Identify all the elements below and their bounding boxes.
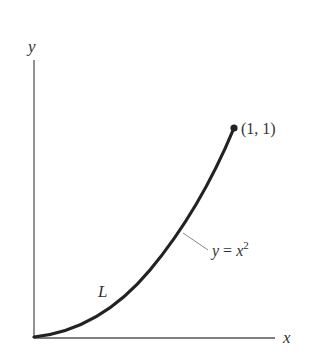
equation-leader-line — [183, 233, 208, 250]
eq-x: x — [235, 242, 243, 259]
point-label: (1, 1) — [241, 120, 276, 138]
endpoint-dot — [230, 124, 237, 131]
eq-exponent: 2 — [243, 239, 249, 251]
y-axis-label: y — [26, 37, 36, 56]
curve-name-label: L — [97, 282, 107, 301]
parabola-curve — [34, 128, 234, 337]
curve-equation-label: y = x2 — [210, 239, 249, 260]
eq-equals: = — [219, 242, 236, 259]
x-axis-label: x — [282, 328, 291, 347]
parabola-diagram: y x (1, 1) y = x2 L — [0, 0, 312, 355]
